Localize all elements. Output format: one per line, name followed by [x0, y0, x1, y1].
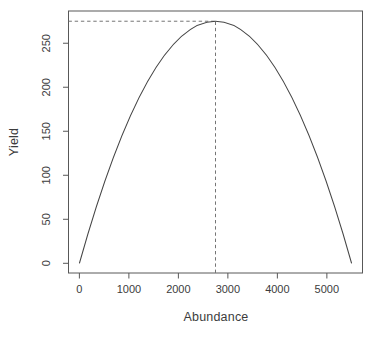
y-tick-label: 50 — [41, 213, 53, 225]
plot-canvas: 010002000300040005000050100150200250 — [0, 0, 379, 338]
x-tick-label: 2000 — [166, 283, 190, 295]
y-tick-label: 200 — [41, 78, 53, 96]
y-tick-label: 0 — [41, 260, 53, 266]
x-axis-title: Abundance — [183, 310, 248, 324]
y-tick-label: 250 — [41, 34, 53, 52]
y-tick-label: 150 — [41, 122, 53, 140]
x-tick-label: 0 — [76, 283, 82, 295]
x-tick-label: 5000 — [315, 283, 339, 295]
y-tick-label: 100 — [41, 166, 53, 184]
y-axis-title: Yield — [7, 128, 21, 156]
x-tick-label: 3000 — [216, 283, 240, 295]
yield-abundance-chart: 010002000300040005000050100150200250 Yie… — [0, 0, 379, 338]
x-tick-label: 1000 — [117, 283, 141, 295]
x-tick-label: 4000 — [265, 283, 289, 295]
